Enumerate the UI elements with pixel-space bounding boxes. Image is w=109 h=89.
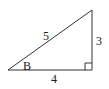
vertical-leg-label: 3 — [96, 35, 102, 47]
right-triangle-diagram: 5 3 4 B — [0, 0, 109, 89]
triangle-outline — [8, 10, 92, 70]
horizontal-leg-label: 4 — [51, 73, 57, 85]
right-angle-marker — [85, 63, 92, 70]
angle-b-label: B — [23, 60, 31, 72]
hypotenuse-label: 5 — [43, 30, 49, 42]
